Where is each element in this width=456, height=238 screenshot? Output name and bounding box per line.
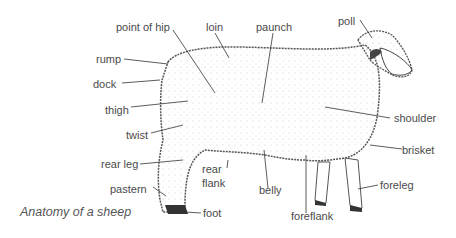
label-loin: loin bbox=[206, 21, 223, 33]
label-belly: belly bbox=[259, 184, 282, 196]
label-foot: foot bbox=[203, 207, 221, 219]
sheep-anatomy-diagram: point of hip loin paunch poll rump dock … bbox=[0, 0, 456, 238]
label-foreleg: foreleg bbox=[380, 179, 414, 191]
diagram-title: Anatomy of a sheep bbox=[20, 205, 131, 219]
label-shoulder: shoulder bbox=[394, 112, 436, 124]
label-dock: dock bbox=[93, 78, 116, 90]
label-rump: rump bbox=[96, 53, 121, 65]
label-rear-flank-line1: rear bbox=[202, 163, 222, 175]
front-leg-near bbox=[345, 158, 362, 210]
label-pastern: pastern bbox=[110, 183, 147, 195]
label-rear-leg: rear leg bbox=[101, 158, 138, 170]
label-rear-flank-line2: flank bbox=[202, 177, 225, 189]
label-point-of-hip: point of hip bbox=[116, 21, 170, 33]
label-paunch: paunch bbox=[256, 21, 292, 33]
label-thigh: thigh bbox=[105, 104, 129, 116]
front-leg-far bbox=[315, 162, 330, 205]
label-brisket: brisket bbox=[402, 144, 434, 156]
label-poll: poll bbox=[338, 15, 355, 27]
label-twist: twist bbox=[126, 129, 148, 141]
sheep-illustration bbox=[0, 0, 456, 238]
label-foreflank: foreflank bbox=[291, 210, 333, 222]
